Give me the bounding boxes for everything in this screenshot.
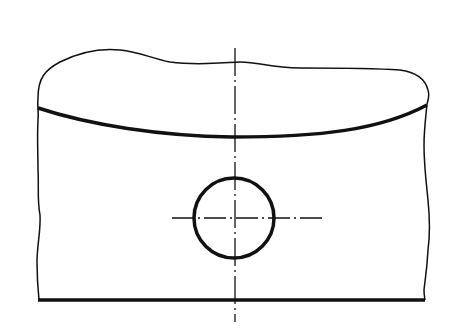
break-line-right bbox=[424, 104, 430, 300]
curved-edge bbox=[38, 105, 427, 137]
technical-drawing bbox=[0, 0, 462, 329]
drawing-canvas bbox=[0, 0, 462, 329]
break-line-top bbox=[38, 50, 429, 105]
break-line-left bbox=[37, 98, 40, 300]
